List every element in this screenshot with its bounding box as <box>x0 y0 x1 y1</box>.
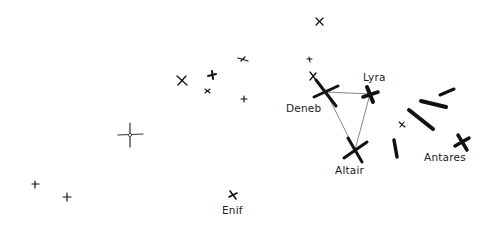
star-antares-icon[interactable] <box>455 135 469 150</box>
star-small-icon[interactable] <box>399 122 405 127</box>
star-streak-icon[interactable] <box>394 140 397 157</box>
star-streak-icon[interactable] <box>409 110 433 129</box>
star-map <box>0 0 495 229</box>
star-small-icon[interactable] <box>307 57 312 62</box>
star-small-icon[interactable] <box>208 71 216 79</box>
star-lyra-icon[interactable] <box>363 87 378 102</box>
label-antares: Antares <box>424 151 466 163</box>
star-large-faint-icon[interactable] <box>118 123 143 147</box>
star-altair-icon[interactable] <box>344 138 367 162</box>
star-small-icon[interactable] <box>32 181 39 188</box>
star-small-icon[interactable] <box>241 96 247 102</box>
label-enif: Enif <box>222 204 243 216</box>
star-small-icon[interactable] <box>205 89 210 93</box>
star-small-icon[interactable] <box>63 193 71 201</box>
line-deneb-lyra <box>326 92 370 94</box>
star-small-icon[interactable] <box>177 76 187 85</box>
star-small-icon[interactable] <box>310 72 316 80</box>
star-small-icon[interactable] <box>316 18 323 25</box>
star-small-icon[interactable] <box>238 57 248 61</box>
label-deneb: Deneb <box>286 102 321 114</box>
label-lyra: Lyra <box>363 71 386 83</box>
label-altair: Altair <box>335 164 364 176</box>
star-enif-icon[interactable] <box>229 191 237 199</box>
star-streak-icon[interactable] <box>440 89 454 95</box>
star-streak-icon[interactable] <box>421 101 446 107</box>
